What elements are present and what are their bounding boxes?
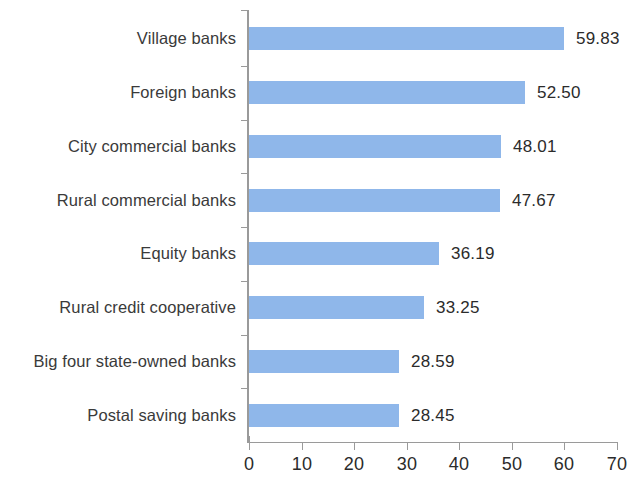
- value-label: 59.83: [576, 27, 620, 50]
- x-axis-tick-label: 70: [587, 452, 630, 476]
- x-axis-tick: [249, 436, 250, 450]
- category-label: Foreign banks: [130, 81, 236, 104]
- category-label: Rural credit cooperative: [59, 296, 236, 319]
- bar: [249, 27, 564, 50]
- bar-chart: Village banksForeign banksCity commercia…: [0, 0, 630, 482]
- bar: [249, 135, 501, 158]
- y-axis-tick: [241, 335, 248, 336]
- bar: [249, 404, 399, 427]
- category-label: Village banks: [137, 27, 236, 50]
- x-axis-tick: [512, 443, 513, 450]
- category-label: Equity banks: [140, 242, 236, 265]
- bar: [249, 350, 399, 373]
- bar: [249, 189, 500, 212]
- y-axis-tick: [241, 227, 248, 228]
- bar: [249, 242, 439, 265]
- value-label: 28.59: [411, 350, 455, 373]
- x-axis-tick-label: 60: [534, 452, 594, 476]
- bar: [249, 81, 525, 104]
- value-label: 48.01: [513, 135, 557, 158]
- x-axis-tick: [564, 443, 565, 450]
- x-axis-tick: [302, 443, 303, 450]
- y-axis-tick: [241, 173, 248, 174]
- bar: [249, 296, 424, 319]
- x-axis-tick-label: 20: [324, 452, 384, 476]
- x-axis-tick-label: 10: [272, 452, 332, 476]
- x-axis-tick-label: 30: [377, 452, 437, 476]
- x-axis-tick-label: 40: [429, 452, 489, 476]
- category-label: Rural commercial banks: [57, 189, 236, 212]
- value-label: 33.25: [436, 296, 480, 319]
- value-label: 36.19: [451, 242, 495, 265]
- x-axis-tick: [459, 443, 460, 450]
- x-axis-tick-label: 50: [482, 452, 542, 476]
- category-label: Postal saving banks: [87, 404, 236, 427]
- value-label: 52.50: [537, 81, 581, 104]
- y-axis-top-tick: [241, 10, 248, 11]
- y-axis-tick: [241, 120, 248, 121]
- y-axis-tick: [241, 388, 248, 389]
- plot-area: Village banksForeign banksCity commercia…: [0, 0, 630, 482]
- value-label: 47.67: [512, 189, 556, 212]
- x-axis-tick-label: 0: [219, 452, 279, 476]
- category-label: City commercial banks: [68, 135, 236, 158]
- y-axis-tick: [241, 281, 248, 282]
- category-label: Big four state-owned banks: [33, 350, 236, 373]
- x-axis-tick: [354, 443, 355, 450]
- value-label: 28.45: [411, 404, 455, 427]
- x-axis-tick: [617, 443, 618, 450]
- x-axis-tick: [407, 443, 408, 450]
- y-axis-tick: [241, 66, 248, 67]
